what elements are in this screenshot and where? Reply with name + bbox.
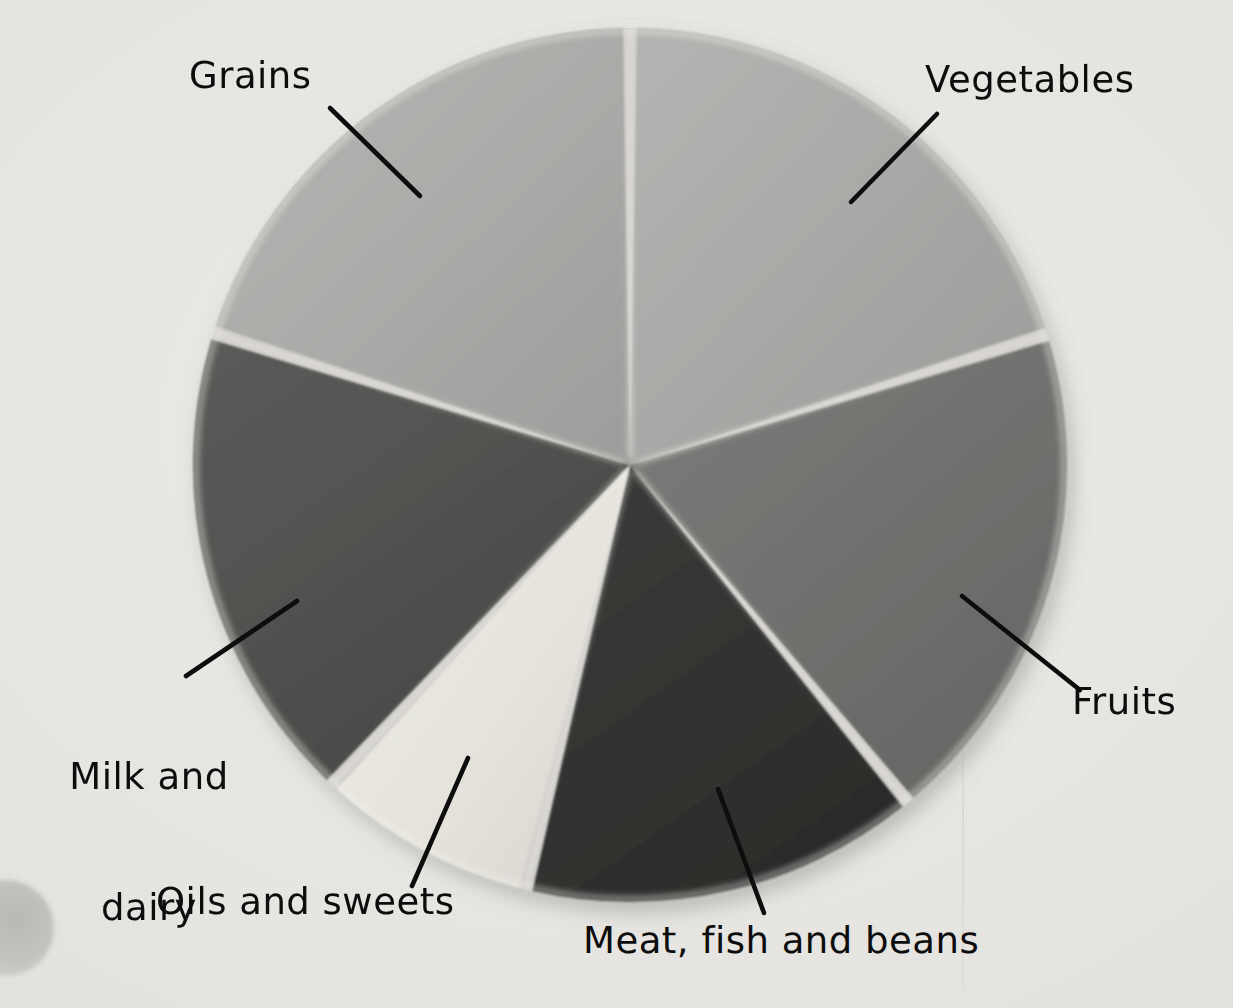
label-grains: Grains: [189, 54, 312, 98]
label-vegetables: Vegetables: [925, 58, 1134, 102]
pie-chart-figure: Grains Vegetables Fruits Milk and dairy …: [0, 0, 1233, 1008]
label-oils-and-sweets: Oils and sweets: [156, 880, 454, 924]
label-fruits: Fruits: [1072, 680, 1176, 724]
label-meat-fish-and-beans: Meat, fish and beans: [583, 919, 979, 963]
label-milk-line-1: Milk and: [44, 755, 254, 799]
label-milk-and-dairy: Milk and dairy: [44, 668, 254, 1008]
